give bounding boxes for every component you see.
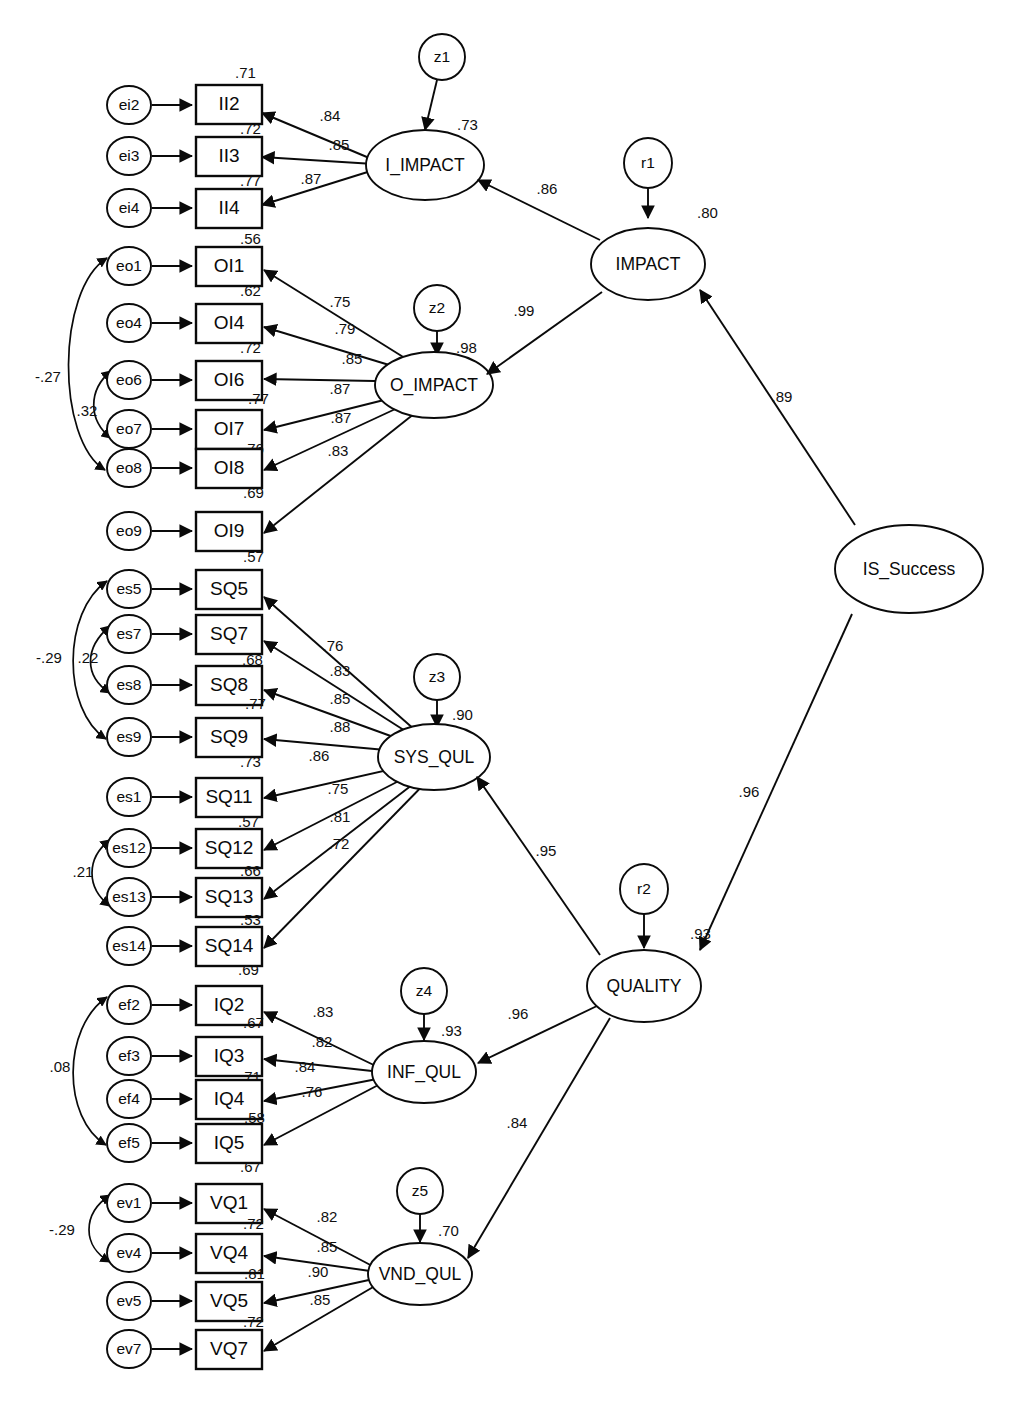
r2-OI4: .62	[240, 282, 261, 299]
loading-IQ4: .84	[295, 1058, 316, 1075]
covariance-label-ev1-ev4: -.29	[49, 1221, 75, 1238]
r2-SYS_QUL: .90	[452, 706, 473, 723]
r2-II2: .71	[235, 64, 256, 81]
loading-IQ3: .82	[312, 1033, 333, 1050]
error-label-es12: es12	[112, 839, 146, 856]
r2-OI7: .77	[248, 390, 269, 407]
latent-label-I_IMPACT: I_IMPACT	[385, 155, 465, 176]
r2-SQ9: .73	[240, 753, 261, 770]
sem-canvas: ei2 ei3 ei4 II2 .71 II3 .72 II4 .77 .56 …	[0, 0, 1018, 1405]
loading-OI4: .79	[335, 320, 356, 337]
covariance-label-eo6-eo7: .32	[77, 402, 98, 419]
error-label-es9: es9	[117, 728, 142, 745]
loading-II2: .84	[320, 107, 341, 124]
loading-SQ5: .76	[323, 637, 344, 654]
r2-SQ12: .66	[240, 862, 261, 879]
error-label-eo7: eo7	[116, 420, 142, 437]
indicator-label-IQ4: IQ4	[214, 1088, 245, 1109]
loading-SQ7: .83	[330, 662, 351, 679]
estimate-QUALITY-INF_QUL: .96	[508, 1005, 529, 1022]
indicator-label-OI7: OI7	[214, 418, 245, 439]
error-label-eo6: eo6	[116, 371, 142, 388]
estimate-IMPACT-O_IMPACT: .99	[514, 302, 535, 319]
indicator-label-SQ9: SQ9	[210, 726, 248, 747]
loading-OI1: .75	[330, 293, 351, 310]
r2-IMPACT: .80	[697, 204, 718, 221]
indicator-label-SQ7: SQ7	[210, 623, 248, 644]
loading-SQ11: .86	[309, 747, 330, 764]
r2-O_IMPACT: .98	[456, 339, 477, 356]
indicator-label-IQ2: IQ2	[214, 994, 245, 1015]
error-label-ei3: ei3	[119, 147, 140, 164]
r2-II3: .72	[240, 120, 261, 137]
indicator-label-SQ8: SQ8	[210, 674, 248, 695]
indicator-label-SQ13: SQ13	[205, 886, 254, 907]
disturbance-label-z3: z3	[429, 668, 445, 685]
residual-label-r2: r2	[637, 880, 651, 897]
indicator-label-VQ7: VQ7	[210, 1338, 248, 1359]
r2-SQ8: .77	[245, 695, 266, 712]
r2-SQ14: .69	[238, 961, 259, 978]
indicator-label-II2: II2	[218, 93, 239, 114]
r2-VQ1: .72	[243, 1215, 264, 1232]
loading-VQ1: .82	[317, 1208, 338, 1225]
estimate-IMPACT-I_IMPACT: .86	[537, 180, 558, 197]
canvas-background	[0, 0, 1018, 1405]
indicator-label-OI4: OI4	[214, 312, 245, 333]
loading-OI9: .83	[328, 442, 349, 459]
error-label-ei4: ei4	[119, 199, 140, 216]
error-label-ev4: ev4	[117, 1244, 142, 1261]
loading-VQ5: .90	[308, 1263, 329, 1280]
error-label-ev1: ev1	[117, 1194, 142, 1211]
loading-OI7: .87	[330, 380, 351, 397]
error-label-ev5: ev5	[117, 1292, 142, 1309]
r2-VQ4: .81	[244, 1265, 265, 1282]
r2-I_IMPACT: .73	[457, 116, 478, 133]
disturbance-label-z5: z5	[412, 1182, 428, 1199]
disturbance-label-z2: z2	[429, 299, 445, 316]
r2-VND_QUL: .70	[438, 1222, 459, 1239]
loading-OI6: .85	[342, 350, 363, 367]
r2-INF_QUL: .93	[441, 1022, 462, 1039]
latent-label-IMPACT: IMPACT	[616, 254, 681, 274]
error-label-es7: es7	[117, 625, 142, 642]
error-label-es5: es5	[117, 580, 142, 597]
indicator-label-OI1: OI1	[214, 255, 245, 276]
error-label-es14: es14	[112, 937, 146, 954]
latent-label-O_IMPACT: O_IMPACT	[390, 375, 478, 396]
loading-VQ7: .85	[310, 1291, 331, 1308]
loading-IQ5: .76	[302, 1083, 323, 1100]
covariance-label-ef2-ef5: .08	[50, 1058, 71, 1075]
r2-IQ5: .67	[240, 1158, 261, 1175]
loading-II3: .85	[329, 136, 350, 153]
loading-SQ8: .85	[330, 690, 351, 707]
latent-label-INF_QUL: INF_QUL	[387, 1062, 461, 1083]
indicator-label-VQ5: VQ5	[210, 1290, 248, 1311]
r2-SQ11: .57	[238, 813, 259, 830]
indicator-label-OI6: OI6	[214, 369, 245, 390]
r2-SQ5: .57	[243, 548, 264, 565]
indicator-label-VQ1: VQ1	[210, 1192, 248, 1213]
latent-label-QUALITY: QUALITY	[607, 976, 682, 996]
latent-label-VND_QUL: VND_QUL	[379, 1264, 462, 1285]
loading-SQ14: .72	[329, 835, 350, 852]
r2-OI9: .69	[243, 484, 264, 501]
estimate-QUALITY-SYS_QUL: .95	[536, 842, 557, 859]
indicator-label-II4: II4	[218, 197, 240, 218]
error-label-ei2: ei2	[119, 96, 140, 113]
r2-OI1: .56	[240, 230, 261, 247]
r2-SQ13: .53	[240, 911, 261, 928]
error-label-es13: es13	[112, 888, 146, 905]
covariance-label-es5-es9: -.29	[36, 649, 62, 666]
error-label-ev7: ev7	[117, 1340, 142, 1357]
error-label-eo9: eo9	[116, 522, 142, 539]
covariance-label-eo1-eo8: -.27	[35, 368, 61, 385]
error-label-ef2: ef2	[118, 996, 140, 1013]
latent-label-SYS_QUL: SYS_QUL	[394, 747, 475, 768]
r2-VQ5: .72	[243, 1313, 264, 1330]
error-label-es1: es1	[117, 788, 142, 805]
error-label-eo8: eo8	[116, 459, 142, 476]
loading-SQ12: .75	[328, 780, 349, 797]
estimate-QUALITY-VND_QUL: .84	[507, 1114, 528, 1131]
error-label-ef3: ef3	[118, 1047, 140, 1064]
